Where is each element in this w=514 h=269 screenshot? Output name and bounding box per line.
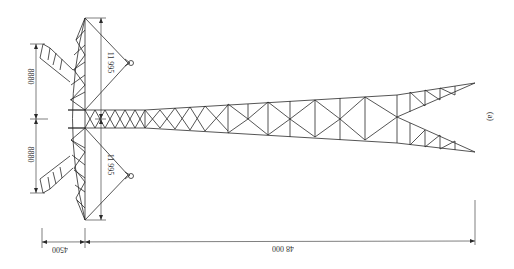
dimension-lines: [30, 18, 475, 248]
dim-11995-lower: 11 995: [106, 154, 115, 176]
dim-11995-upper: 11 995: [106, 52, 115, 74]
dim-48000: 48 000: [272, 244, 294, 253]
tower-diagram: 8880 8880 11 995 11 995 4500 48 000 (a): [0, 0, 514, 269]
ground-wire-stays: [85, 18, 130, 220]
tower-drawing: [0, 0, 514, 269]
dim-4500: 4500: [52, 245, 68, 254]
dim-8880-lower: 8880: [26, 147, 35, 163]
subfigure-label: (a): [486, 112, 495, 121]
dim-8880-upper: 8880: [26, 69, 35, 85]
tower-body: [68, 83, 475, 152]
